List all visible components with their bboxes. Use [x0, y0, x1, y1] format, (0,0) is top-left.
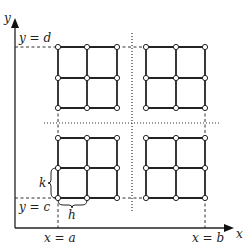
grid-node-icon — [114, 195, 119, 200]
mesh-diagram: y x k h y = d y = c x = a x = b — [0, 0, 247, 249]
grid-node-icon — [202, 44, 207, 49]
h-brace-icon — [58, 200, 87, 208]
grid-node-icon — [84, 195, 89, 200]
grid-top-right — [143, 44, 207, 110]
label-x-b: x = b — [192, 231, 224, 245]
x-axis-arrow-icon — [224, 224, 234, 232]
grid-node-icon — [84, 75, 89, 80]
grid-node-icon — [173, 195, 178, 200]
grid-node-icon — [143, 165, 148, 170]
grid-node-icon — [202, 75, 207, 80]
grid-node-icon — [84, 105, 89, 110]
label-y-d: y = d — [18, 31, 51, 45]
grid-node-icon — [173, 105, 178, 110]
y-axis-arrow-icon — [11, 18, 19, 28]
grid-node-icon — [114, 44, 119, 49]
y-axis-label: y — [3, 11, 11, 25]
grid-node-icon — [114, 135, 119, 140]
grid-node-icon — [84, 135, 89, 140]
grid-node-icon — [55, 135, 60, 140]
grid-node-icon — [55, 165, 60, 170]
grid-node-icon — [55, 44, 60, 49]
grid-node-icon — [173, 165, 178, 170]
grid-node-icon — [202, 195, 207, 200]
k-brace-icon — [48, 168, 56, 198]
h-step-label: h — [68, 208, 76, 222]
grid-node-icon — [173, 44, 178, 49]
label-x-a: x = a — [44, 231, 76, 245]
grid-node-icon — [114, 165, 119, 170]
grid-bottom-left — [55, 135, 119, 200]
grid-top-left — [55, 44, 119, 110]
grid-node-icon — [84, 44, 89, 49]
grid-node-icon — [202, 165, 207, 170]
grid-node-icon — [55, 75, 60, 80]
grid-node-icon — [173, 135, 178, 140]
x-axis-label: x — [236, 227, 243, 241]
k-step-label: k — [39, 176, 46, 190]
grid-node-icon — [114, 75, 119, 80]
grid-node-icon — [143, 75, 148, 80]
grid-bottom-right — [143, 135, 207, 200]
grid-node-icon — [114, 105, 119, 110]
grid-node-icon — [173, 75, 178, 80]
grid-node-icon — [143, 195, 148, 200]
grid-node-icon — [55, 105, 60, 110]
grid-node-icon — [143, 105, 148, 110]
grid-node-icon — [143, 135, 148, 140]
grid-node-icon — [143, 44, 148, 49]
grid-node-icon — [55, 195, 60, 200]
label-y-c: y = c — [18, 200, 50, 214]
grid-node-icon — [202, 105, 207, 110]
grid-node-icon — [202, 135, 207, 140]
grid-node-icon — [84, 165, 89, 170]
